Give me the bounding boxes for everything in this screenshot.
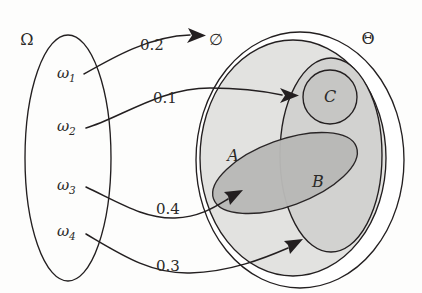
domain-element-w1-glyph: ω bbox=[57, 64, 69, 82]
domain-element-w3-glyph: ω bbox=[57, 176, 69, 194]
domain-element-w1: ω 1 bbox=[57, 64, 76, 84]
domain-element-w2: ω 2 bbox=[57, 117, 76, 137]
diagram-canvas: A B C Θ ∅ Ω ω 1 ω 2 ω 3 ω 4 bbox=[0, 0, 422, 293]
set-mapping-diagram: A B C Θ ∅ Ω ω 1 ω 2 ω 3 ω 4 bbox=[0, 0, 422, 293]
domain-element-w3: ω 3 bbox=[57, 176, 76, 196]
mapping-weight-0-4: 0.4 bbox=[156, 200, 180, 218]
mapping-weight-0-2: 0.2 bbox=[140, 36, 164, 54]
domain-element-w3-subscript: 3 bbox=[69, 184, 76, 196]
empty-set-label: ∅ bbox=[209, 30, 223, 49]
region-label-c: C bbox=[324, 87, 336, 106]
domain-element-w4-subscript: 4 bbox=[68, 230, 76, 242]
domain-element-w2-subscript: 2 bbox=[68, 125, 76, 137]
region-label-a: A bbox=[225, 146, 239, 165]
domain-element-w4: ω 4 bbox=[57, 222, 76, 242]
region-label-b: B bbox=[311, 172, 324, 191]
domain-set-label: Ω bbox=[20, 30, 33, 49]
domain-element-w2-glyph: ω bbox=[57, 117, 69, 135]
mapping-weight-0-3: 0.3 bbox=[156, 257, 180, 275]
mapping-weight-0-1: 0.1 bbox=[153, 89, 177, 107]
mapping-arrow-w1-to-emptyset: 0.2 bbox=[84, 28, 206, 74]
domain-element-w4-glyph: ω bbox=[57, 222, 69, 240]
domain-element-w1-subscript: 1 bbox=[69, 72, 76, 84]
codomain-set-label: Θ bbox=[361, 29, 374, 48]
